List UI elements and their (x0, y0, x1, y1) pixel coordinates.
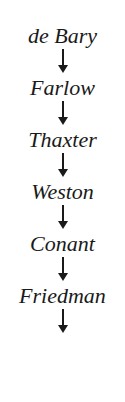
lineage-arrow (0, 256, 125, 284)
down-arrow-icon (56, 308, 70, 334)
down-arrow-icon (56, 152, 70, 178)
lineage-node: Weston (0, 180, 125, 204)
lineage-arrow (0, 204, 125, 232)
lineage-diagram: de Bary Farlow Thaxter Weston Conant Fri… (0, 0, 125, 402)
lineage-arrow (0, 152, 125, 180)
lineage-arrow (0, 48, 125, 76)
lineage-node: Friedman (0, 284, 125, 308)
lineage-node: de Bary (0, 24, 125, 48)
lineage-node: Conant (0, 232, 125, 256)
down-arrow-icon (56, 100, 70, 126)
lineage-arrow (0, 100, 125, 128)
lineage-node: Thaxter (0, 128, 125, 152)
down-arrow-icon (56, 48, 70, 74)
lineage-arrow-trailing (0, 308, 125, 336)
down-arrow-icon (56, 204, 70, 230)
lineage-node: Farlow (0, 76, 125, 100)
down-arrow-icon (56, 256, 70, 282)
